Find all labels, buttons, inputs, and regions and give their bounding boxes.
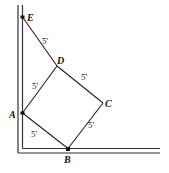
length-label-BC: 5′ bbox=[88, 120, 95, 130]
length-label-AB: 5′ bbox=[31, 129, 38, 139]
point-label-A: A bbox=[8, 109, 16, 120]
segment-AB bbox=[23, 113, 69, 149]
segment-ED bbox=[23, 17, 58, 66]
point-B-marker bbox=[66, 147, 70, 151]
point-label-E: E bbox=[26, 12, 34, 23]
segment-AD bbox=[23, 66, 58, 113]
horizontal-floor bbox=[18, 149, 160, 154]
segment-DC bbox=[57, 66, 103, 103]
point-label-C: C bbox=[105, 98, 112, 109]
point-E-marker bbox=[21, 16, 25, 19]
ladder-square-diagram: E D C A B 5′ 5′ 5′ 5′ 5′ bbox=[0, 0, 169, 173]
length-label-AD: 5′ bbox=[32, 81, 39, 91]
point-A-marker bbox=[21, 112, 25, 115]
point-label-B: B bbox=[63, 154, 71, 165]
vertical-wall bbox=[18, 5, 23, 153]
length-label-DC: 5′ bbox=[81, 72, 88, 82]
length-label-ED: 5′ bbox=[42, 36, 49, 46]
point-label-D: D bbox=[56, 55, 64, 66]
segment-BC bbox=[68, 103, 103, 149]
